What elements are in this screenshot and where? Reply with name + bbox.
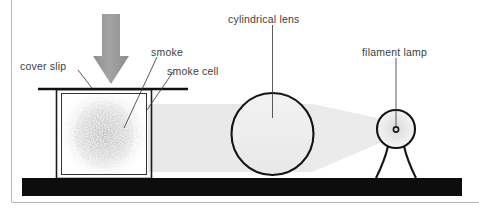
label-smoke-cell: smoke cell bbox=[167, 65, 219, 77]
label-cylindrical-lens: cylindrical lens bbox=[228, 13, 299, 25]
bench-base bbox=[22, 178, 462, 196]
diagram-canvas: cover slip smoke smoke cell cylindrical … bbox=[0, 0, 479, 209]
label-filament-lamp: filament lamp bbox=[362, 46, 427, 58]
label-cover-slip: cover slip bbox=[20, 60, 66, 72]
diagram-smoke-cell-apparatus: cover slip smoke smoke cell cylindrical … bbox=[0, 0, 479, 209]
label-smoke: smoke bbox=[151, 46, 183, 58]
smoke-cloud bbox=[62, 92, 146, 176]
smoke-core-haze bbox=[74, 100, 134, 168]
